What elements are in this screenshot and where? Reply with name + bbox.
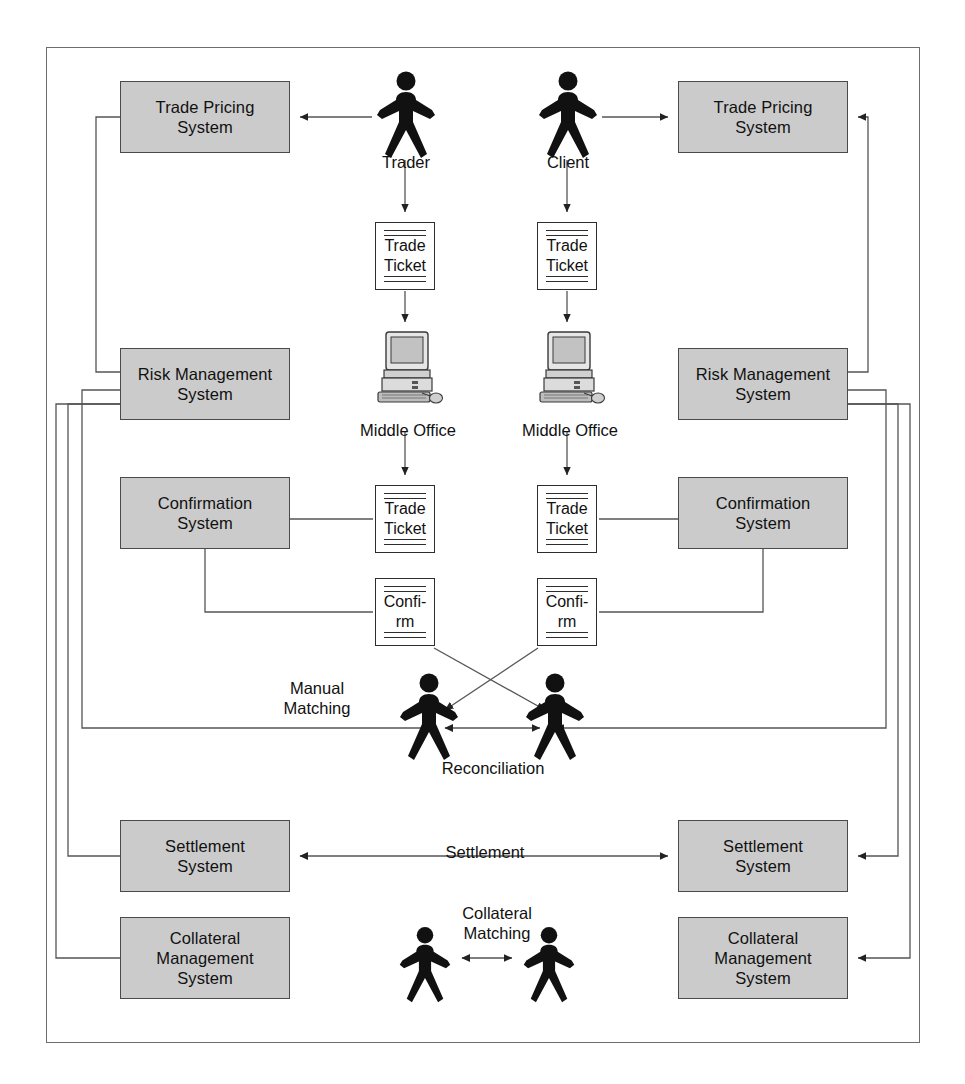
document-trade-ticket-client-mid[interactable]: Trade Ticket — [537, 485, 597, 553]
person-icon-reconciliation-left — [398, 672, 460, 760]
document-confirm-trader[interactable]: Confi- rm — [375, 578, 435, 646]
doc-rule — [384, 276, 426, 277]
doc-rule — [384, 632, 426, 633]
doc-rule — [546, 493, 588, 494]
computer-icon-middle-office-left — [372, 330, 444, 414]
document-label: Trade Ticket — [546, 236, 588, 276]
doc-rule — [384, 637, 426, 638]
person-icon-reconciliation-right — [524, 672, 586, 760]
label-reconciliation: Reconciliation — [418, 758, 568, 778]
label-manual-matching: Manual Matching — [262, 678, 372, 718]
doc-rule — [384, 586, 426, 587]
doc-rule — [546, 544, 588, 545]
doc-rule — [546, 637, 588, 638]
document-label: Confi- rm — [546, 592, 589, 632]
label-trader: Trader — [376, 152, 436, 172]
doc-rule — [546, 276, 588, 277]
doc-rule — [384, 230, 426, 231]
doc-rule — [384, 544, 426, 545]
person-icon-trader — [375, 70, 437, 158]
system-box-confirmation-left[interactable]: Confirmation System — [120, 477, 290, 549]
doc-rule — [546, 586, 588, 587]
system-box-risk-management-right[interactable]: Risk Management System — [678, 348, 848, 420]
document-trade-ticket-client-top[interactable]: Trade Ticket — [537, 222, 597, 290]
system-box-risk-management-left[interactable]: Risk Management System — [120, 348, 290, 420]
document-label: Trade Ticket — [546, 499, 588, 539]
document-label: Trade Ticket — [384, 499, 426, 539]
doc-rule — [384, 281, 426, 282]
doc-rule — [384, 539, 426, 540]
system-box-collateral-management-left[interactable]: Collateral Management System — [120, 917, 290, 999]
document-trade-ticket-trader-mid[interactable]: Trade Ticket — [375, 485, 435, 553]
system-box-collateral-management-right[interactable]: Collateral Management System — [678, 917, 848, 999]
person-icon-client — [537, 70, 599, 158]
document-trade-ticket-trader-top[interactable]: Trade Ticket — [375, 222, 435, 290]
document-confirm-client[interactable]: Confi- rm — [537, 578, 597, 646]
label-middle-office-right: Middle Office — [502, 420, 638, 440]
computer-icon-middle-office-right — [534, 330, 606, 414]
doc-rule — [546, 230, 588, 231]
system-box-trade-pricing-right[interactable]: Trade Pricing System — [678, 81, 848, 153]
system-box-settlement-left[interactable]: Settlement System — [120, 820, 290, 892]
doc-rule — [384, 493, 426, 494]
document-label: Trade Ticket — [384, 236, 426, 276]
label-middle-office-left: Middle Office — [340, 420, 476, 440]
trade-lifecycle-diagram: Trade Pricing System Trade Pricing Syste… — [0, 0, 965, 1084]
doc-rule — [546, 281, 588, 282]
label-settlement: Settlement — [425, 842, 545, 862]
label-client: Client — [538, 152, 598, 172]
doc-rule — [546, 632, 588, 633]
system-box-trade-pricing-left[interactable]: Trade Pricing System — [120, 81, 290, 153]
document-label: Confi- rm — [384, 592, 427, 632]
system-box-confirmation-right[interactable]: Confirmation System — [678, 477, 848, 549]
doc-rule — [546, 539, 588, 540]
system-box-settlement-right[interactable]: Settlement System — [678, 820, 848, 892]
label-collateral-matching: Collateral Matching — [432, 903, 562, 943]
